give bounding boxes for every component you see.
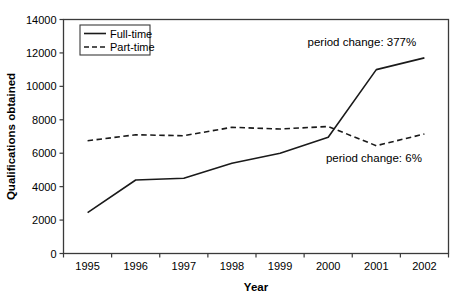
- y-axis-tick-label: 0: [50, 248, 56, 260]
- x-axis-tick-label: 2000: [316, 260, 340, 272]
- annotation-0: period change: 377%: [308, 36, 417, 48]
- annotation-1: period change: 6%: [326, 152, 422, 164]
- full-time-line: [88, 58, 425, 213]
- y-axis-tick-label: 4000: [32, 181, 56, 193]
- legend-label-full-time: Full-time: [110, 28, 152, 40]
- x-axis-tick-label: 1996: [123, 260, 147, 272]
- qualifications-line-chart: 0200040006000800010000120001400019951996…: [0, 0, 459, 303]
- y-axis-title: Qualifications obtained: [5, 73, 17, 200]
- y-axis-tick-label: 14000: [26, 14, 57, 26]
- y-axis-tick-label: 12000: [26, 47, 57, 59]
- y-axis-tick-label: 2000: [32, 214, 56, 226]
- x-axis-tick-label: 1999: [268, 260, 292, 272]
- x-axis-tick-label: 1998: [220, 260, 244, 272]
- y-axis-tick-label: 6000: [32, 147, 56, 159]
- chart-canvas: 0200040006000800010000120001400019951996…: [0, 0, 459, 303]
- x-axis-tick-label: 2002: [412, 260, 436, 272]
- x-axis-title: Year: [244, 281, 269, 293]
- x-axis-tick-label: 1997: [172, 260, 196, 272]
- x-axis-tick-label: 2001: [364, 260, 388, 272]
- part-time-line: [88, 127, 425, 146]
- x-axis-tick-label: 1995: [75, 260, 99, 272]
- y-axis-tick-label: 10000: [26, 80, 57, 92]
- legend-label-part-time: Part-time: [110, 41, 155, 53]
- y-axis-tick-label: 8000: [32, 114, 56, 126]
